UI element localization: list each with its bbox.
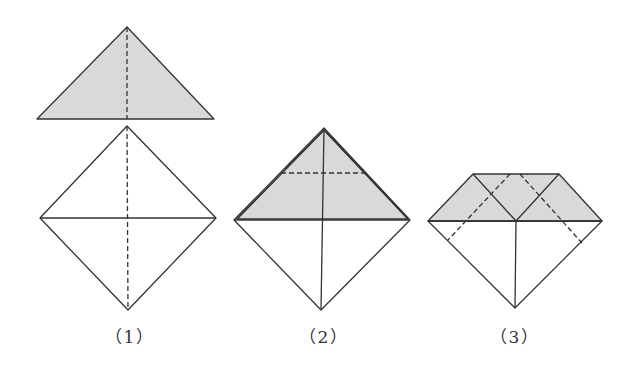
step1-diamond — [40, 126, 216, 310]
step1-folded-triangle — [37, 27, 214, 119]
step-label-2: （2） — [299, 323, 350, 348]
step-label-1: （1） — [105, 323, 156, 348]
origami-diagram — [0, 0, 636, 369]
step2-diamond — [234, 128, 410, 310]
step-label-3: （3） — [490, 323, 541, 348]
step3-shape — [428, 174, 602, 308]
